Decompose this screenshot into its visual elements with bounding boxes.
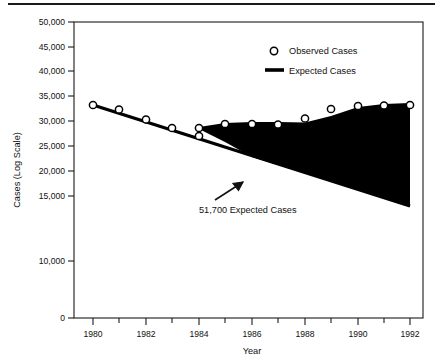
data-point (248, 120, 255, 127)
legend-label-expected: Expected Cases (289, 66, 356, 76)
data-point (301, 115, 308, 122)
y-tick-label: 30,000 (39, 116, 66, 126)
data-point (380, 102, 387, 109)
data-point (195, 124, 202, 131)
data-point (354, 102, 361, 109)
x-axis-tick-labels: 1980 1982 1984 1986 1988 1990 1992 (83, 329, 419, 339)
y-tick-label: 45,000 (39, 42, 66, 52)
y-axis-tick-labels: 50,000 45,000 40,000 35,000 30,000 25,00… (39, 17, 66, 323)
legend: Observed Cases Expected Cases (265, 46, 358, 76)
y-axis-title: Cases (Log Scale) (12, 132, 22, 208)
y-tick-label: 10,000 (39, 256, 66, 266)
y-tick-label: 25,000 (39, 141, 66, 151)
legend-observed-marker-icon (270, 47, 277, 54)
x-tick-label: 1992 (400, 329, 419, 339)
x-tick-label: 1984 (189, 329, 208, 339)
y-tick-label: 15,000 (39, 191, 66, 201)
data-point (406, 101, 413, 108)
x-tick-label: 1990 (348, 329, 367, 339)
y-tick-label: 50,000 (39, 17, 66, 27)
annotation-arrow-icon (215, 182, 243, 200)
y-axis-title-text: Cases (Log Scale) (12, 132, 22, 208)
x-axis-title: Year (243, 346, 262, 356)
data-point (89, 101, 96, 108)
x-tick-label: 1982 (136, 329, 155, 339)
y-tick-label: 40,000 (39, 66, 66, 76)
x-tick-label: 1980 (83, 329, 102, 339)
data-point (327, 105, 334, 112)
x-tick-label: 1988 (295, 329, 314, 339)
data-point (195, 132, 202, 139)
y-tick-label: 0 (60, 313, 65, 323)
x-axis-title-text: Year (243, 346, 262, 356)
x-axis-ticks (93, 318, 410, 325)
y-tick-label: 20,000 (39, 166, 66, 176)
data-point (274, 121, 281, 128)
annotation-text: 51,700 Expected Cases (199, 205, 297, 215)
data-point (115, 106, 122, 113)
data-point (142, 116, 149, 123)
data-point (221, 120, 228, 127)
y-tick-label: 35,000 (39, 91, 66, 101)
x-tick-label: 1986 (242, 329, 261, 339)
y-axis-ticks (68, 22, 74, 318)
chart-canvas: 50,000 45,000 40,000 35,000 30,000 25,00… (0, 0, 443, 362)
legend-label-observed: Observed Cases (289, 46, 358, 56)
data-point (168, 124, 175, 131)
